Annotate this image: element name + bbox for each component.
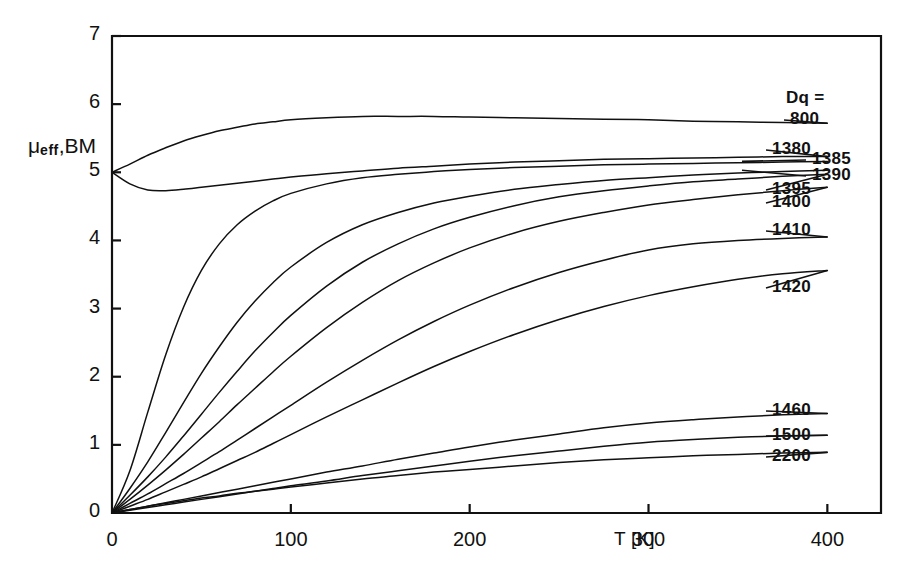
chart-figure: μeff,BM T [K] 01234567 0100200300400 Dq … <box>0 0 918 580</box>
series-label-1400: 1400 <box>772 192 811 212</box>
y-axis-label-suffix: ,BM <box>59 134 96 157</box>
frame-rect <box>112 36 881 513</box>
y-tick-label: 4 <box>76 226 100 249</box>
x-tick-label: 200 <box>446 528 494 551</box>
curve-1410 <box>112 237 827 513</box>
y-tick-label: 1 <box>76 431 100 454</box>
y-tick-label: 6 <box>76 90 100 113</box>
legend-title: Dq = <box>786 88 825 108</box>
curve-1395 <box>112 174 827 513</box>
x-tick-label: 300 <box>625 528 673 551</box>
y-tick-label: 0 <box>76 499 100 522</box>
curve-1460 <box>112 414 827 513</box>
x-tick-label: 400 <box>803 528 851 551</box>
series-label-1380: 1380 <box>772 139 811 159</box>
y-tick-label: 7 <box>76 22 100 45</box>
series-label-1460: 1460 <box>772 400 811 420</box>
x-tick-label: 100 <box>267 528 315 551</box>
series-label-1420: 1420 <box>772 277 811 297</box>
y-tick-label: 5 <box>76 158 100 181</box>
series-label-800: 800 <box>790 109 819 129</box>
y-axis-label: μeff,BM <box>28 134 96 158</box>
y-tick-label: 3 <box>76 295 100 318</box>
y-tick-label: 2 <box>76 363 100 386</box>
series-label-1500: 1500 <box>772 425 811 445</box>
plot-frame <box>112 36 881 513</box>
curve-1385 <box>112 161 827 513</box>
data-curves <box>112 116 827 513</box>
series-label-1410: 1410 <box>772 220 811 240</box>
x-tick-label: 0 <box>88 528 136 551</box>
y-axis-label-subscript: eff <box>40 142 59 158</box>
y-axis-label-prefix: μ <box>28 134 40 157</box>
axis-ticks <box>112 36 827 513</box>
curve-1400 <box>112 187 827 513</box>
series-label-2200: 2200 <box>772 446 811 466</box>
series-label-1390: 1390 <box>812 165 851 185</box>
